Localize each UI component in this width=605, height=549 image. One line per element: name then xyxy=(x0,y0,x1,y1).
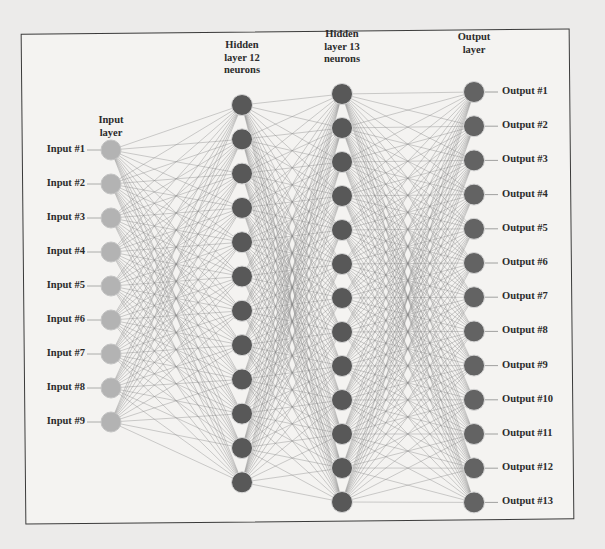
hidden2-neuron-1 xyxy=(332,84,353,105)
input-neuron-6 xyxy=(101,310,121,330)
input-neuron-2 xyxy=(101,174,121,194)
hidden1-neuron-9 xyxy=(232,369,253,390)
hidden2-neuron-10 xyxy=(332,390,353,411)
hidden1-neuron-11 xyxy=(232,438,253,459)
output-neuron-12 xyxy=(464,458,485,479)
output-neuron-5 xyxy=(464,218,485,239)
output-label: Output #8 xyxy=(502,324,548,335)
input-label: Input #6 xyxy=(47,313,85,324)
output-neuron-6 xyxy=(464,253,485,274)
connections xyxy=(111,92,474,502)
output-layer-title: Outputlayer xyxy=(439,31,509,56)
hidden1-neuron-5 xyxy=(232,232,253,253)
input-layer-title: Inputlayer xyxy=(76,114,146,139)
input-neuron-5 xyxy=(101,276,121,296)
output-neuron-1 xyxy=(464,82,485,103)
input-label: Input #8 xyxy=(47,381,85,392)
input-label: Input #5 xyxy=(47,279,85,290)
hidden2-neuron-6 xyxy=(332,254,353,275)
output-label: Output #1 xyxy=(502,85,548,96)
hidden2-layer-title: Hiddenlayer 13neurons xyxy=(307,28,377,66)
hidden1-neuron-2 xyxy=(232,129,253,150)
output-label: Output #6 xyxy=(502,256,548,267)
hidden2-neuron-4 xyxy=(332,186,353,207)
input-neuron-7 xyxy=(101,344,121,364)
output-neuron-10 xyxy=(464,389,485,410)
hidden1-neuron-6 xyxy=(232,266,253,287)
output-neuron-9 xyxy=(464,355,485,376)
input-neuron-8 xyxy=(101,378,121,398)
hidden2-neuron-13 xyxy=(332,492,353,513)
hidden2-neuron-3 xyxy=(332,152,353,173)
hidden1-neuron-4 xyxy=(232,197,253,218)
output-neuron-8 xyxy=(464,321,485,342)
output-label: Output #10 xyxy=(502,393,553,404)
hidden2-neuron-2 xyxy=(332,118,353,139)
output-neuron-4 xyxy=(464,184,485,205)
input-label: Input #1 xyxy=(47,143,85,154)
output-neuron-13 xyxy=(464,492,485,513)
hidden1-neuron-7 xyxy=(232,300,253,321)
input-neuron-1 xyxy=(101,140,121,160)
neural-network-diagram: InputlayerHiddenlayer 12neuronsHiddenlay… xyxy=(0,0,605,549)
output-neuron-7 xyxy=(464,287,485,308)
output-label: Output #4 xyxy=(502,188,548,199)
hidden1-layer-title: Hiddenlayer 12neurons xyxy=(207,39,277,77)
hidden2-neuron-7 xyxy=(332,288,353,309)
hidden1-neuron-12 xyxy=(232,472,253,493)
output-label: Output #13 xyxy=(502,495,553,506)
output-label: Output #2 xyxy=(502,119,548,130)
input-label: Input #7 xyxy=(47,347,85,358)
input-neuron-3 xyxy=(101,208,121,228)
input-label: Input #2 xyxy=(47,177,85,188)
output-label: Output #11 xyxy=(502,427,552,438)
hidden1-neuron-10 xyxy=(232,403,253,424)
hidden2-neuron-9 xyxy=(332,356,353,377)
output-neuron-3 xyxy=(464,150,485,171)
output-label: Output #3 xyxy=(502,153,548,164)
hidden1-neuron-8 xyxy=(232,335,253,356)
input-neuron-9 xyxy=(101,412,121,432)
input-neuron-4 xyxy=(101,242,121,262)
hidden2-neuron-11 xyxy=(332,424,353,445)
hidden1-neuron-3 xyxy=(232,163,253,184)
hidden2-neuron-12 xyxy=(332,458,353,479)
input-label: Input #4 xyxy=(47,245,85,256)
output-label: Output #7 xyxy=(502,290,548,301)
hidden2-neuron-5 xyxy=(332,220,353,241)
output-neuron-2 xyxy=(464,116,485,137)
input-label: Input #9 xyxy=(47,415,85,426)
hidden1-neuron-1 xyxy=(232,95,253,116)
input-label: Input #3 xyxy=(47,211,85,222)
output-label: Output #9 xyxy=(502,359,548,370)
output-label: Output #12 xyxy=(502,461,553,472)
hidden2-neuron-8 xyxy=(332,322,353,343)
output-label: Output #5 xyxy=(502,222,548,233)
output-neuron-11 xyxy=(464,424,485,445)
